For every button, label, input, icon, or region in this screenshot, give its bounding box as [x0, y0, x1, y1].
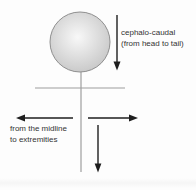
cephalo-caudal-arrowhead [114, 62, 121, 71]
lower-body-arrow [95, 125, 102, 173]
head-circle [50, 12, 110, 72]
midline-label: from the midline to extremities [10, 124, 90, 145]
midline-left-arrowhead [16, 115, 25, 122]
midline-left-arrow [16, 115, 73, 122]
midline-right-arrow [88, 115, 138, 122]
paper-smudge-artifact [0, 178, 196, 188]
midline-right-arrowhead [129, 115, 138, 122]
cephalo-caudal-arrow [114, 15, 121, 71]
lower-body-arrowhead [95, 164, 102, 173]
diagram-canvas: cephalo-caudal (from head to tail) from … [0, 0, 196, 190]
cephalo-caudal-label: cephalo-caudal (from head to tail) [121, 28, 195, 49]
